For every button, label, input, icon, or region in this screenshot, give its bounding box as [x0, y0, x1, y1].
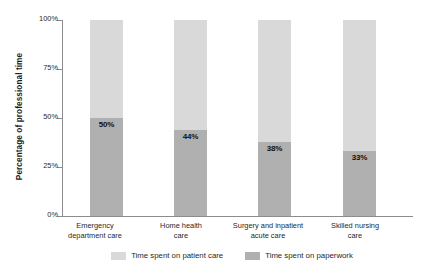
- x-category-line: care: [317, 231, 393, 241]
- y-axis-title: Percentage of professional time: [15, 22, 24, 212]
- bar-segment-patient-care: [343, 20, 376, 151]
- x-axis-line: [62, 216, 413, 217]
- y-tick-label: 0%: [47, 210, 58, 219]
- bar-surgery-and-inpatient-acute-care: 38%: [258, 20, 291, 216]
- bar-value-label: 38%: [258, 144, 291, 153]
- bar-segment-patient-care: [174, 20, 207, 130]
- chart-figure: Percentage of professional time 0% 25% 5…: [0, 0, 422, 273]
- x-category-line: department care: [56, 231, 134, 241]
- x-category-label-emergency-department-care: Emergency department care: [56, 221, 134, 240]
- x-category-line: Emergency: [56, 221, 134, 231]
- legend-label: Time spent on paperwork: [265, 251, 353, 260]
- bar-segment-paperwork: [174, 130, 207, 216]
- legend-swatch-icon: [111, 252, 126, 260]
- bar-skilled-nursing-care: 33%: [343, 20, 376, 216]
- y-tick-label: 100%: [39, 14, 58, 23]
- x-category-line: Surgery and inpatient: [217, 221, 319, 231]
- x-category-label-home-health-care: Home health care: [145, 221, 217, 240]
- x-category-label-skilled-nursing-care: Skilled nursing care: [317, 221, 393, 240]
- legend-item-patient-care: Time spent on patient care: [111, 251, 223, 260]
- legend-label: Time spent on patient care: [131, 251, 223, 260]
- x-category-label-surgery-and-inpatient-acute-care: Surgery and inpatient acute care: [217, 221, 319, 240]
- plot-area: 0% 25% 50% 75% 100% 50% 44%: [62, 20, 406, 216]
- chart-legend: Time spent on patient care Time spent on…: [0, 251, 422, 260]
- bar-value-label: 44%: [174, 132, 207, 141]
- bar-value-label: 33%: [343, 153, 376, 162]
- x-category-line: Skilled nursing: [317, 221, 393, 231]
- bar-segment-paperwork: [90, 118, 123, 216]
- bar-segment-patient-care: [258, 20, 291, 142]
- y-tick-label: 50%: [43, 112, 58, 121]
- y-axis-line: [62, 20, 63, 216]
- x-category-line: acute care: [217, 231, 319, 241]
- bar-value-label: 50%: [90, 120, 123, 129]
- legend-swatch-icon: [245, 252, 260, 260]
- x-category-line: Home health: [145, 221, 217, 231]
- x-category-line: care: [145, 231, 217, 241]
- legend-item-paperwork: Time spent on paperwork: [245, 251, 353, 260]
- bar-home-health-care: 44%: [174, 20, 207, 216]
- bar-emergency-department-care: 50%: [90, 20, 123, 216]
- bar-segment-patient-care: [90, 20, 123, 118]
- bar-segment-paperwork: [258, 142, 291, 216]
- y-tick-label: 75%: [43, 63, 58, 72]
- y-tick-label: 25%: [43, 161, 58, 170]
